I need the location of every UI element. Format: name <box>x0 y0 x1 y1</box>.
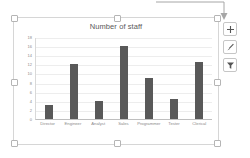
chart-filters-button[interactable] <box>223 58 237 72</box>
x-tick-label: Tester <box>161 122 186 126</box>
y-tick-label: 8 <box>30 82 32 86</box>
chart-side-buttons <box>223 22 239 76</box>
bar-series <box>36 38 212 119</box>
bar[interactable] <box>145 78 153 119</box>
funnel-icon <box>226 61 235 70</box>
resize-handle[interactable] <box>114 15 121 22</box>
x-tick-label: Clerical <box>187 122 212 126</box>
y-tick-label: 14 <box>28 54 32 58</box>
plot-area: 181614121086420 DirectorEngineerAnalystS… <box>20 38 212 138</box>
x-axis: DirectorEngineerAnalystSalesProgrammerTe… <box>35 122 212 126</box>
bar[interactable] <box>120 46 128 119</box>
x-tick-label: Engineer <box>60 122 85 126</box>
x-tick-label: Director <box>35 122 60 126</box>
y-axis: 181614121086420 <box>20 38 34 120</box>
y-tick-label: 16 <box>28 45 32 49</box>
y-tick-label: 10 <box>28 72 32 76</box>
bar-slot <box>137 38 162 119</box>
y-tick-label: 12 <box>28 63 32 67</box>
bar-slot <box>187 38 212 119</box>
resize-handle[interactable] <box>114 140 121 147</box>
resize-handle[interactable] <box>11 15 18 22</box>
plot-canvas <box>35 38 212 120</box>
x-tick-label: Analyst <box>86 122 111 126</box>
bar[interactable] <box>95 101 103 119</box>
bar-slot <box>162 38 187 119</box>
chart-styles-button[interactable] <box>223 40 237 54</box>
resize-handle[interactable] <box>11 79 18 86</box>
chart-title[interactable]: Number of staff <box>14 22 218 31</box>
bar-slot <box>61 38 86 119</box>
bar[interactable] <box>45 105 53 119</box>
plus-icon <box>226 25 235 34</box>
bar[interactable] <box>195 62 203 119</box>
resize-handle[interactable] <box>214 79 221 86</box>
bar-slot <box>111 38 136 119</box>
resize-handle[interactable] <box>11 140 18 147</box>
chart-elements-button[interactable] <box>223 22 237 36</box>
y-tick-label: 6 <box>30 91 32 95</box>
y-tick-label: 0 <box>30 118 32 122</box>
chart-object[interactable]: Number of staff 181614121086420 Director… <box>13 17 219 145</box>
resize-handle[interactable] <box>214 140 221 147</box>
bar[interactable] <box>170 99 178 120</box>
x-tick-label: Sales <box>111 122 136 126</box>
y-tick-label: 4 <box>30 100 32 104</box>
x-tick-label: Programmer <box>136 122 161 126</box>
bar[interactable] <box>70 64 78 119</box>
y-tick-label: 18 <box>28 36 32 40</box>
resize-handle[interactable] <box>214 15 221 22</box>
brush-icon <box>226 43 235 52</box>
y-tick-label: 2 <box>30 109 32 113</box>
bar-slot <box>86 38 111 119</box>
bar-slot <box>36 38 61 119</box>
